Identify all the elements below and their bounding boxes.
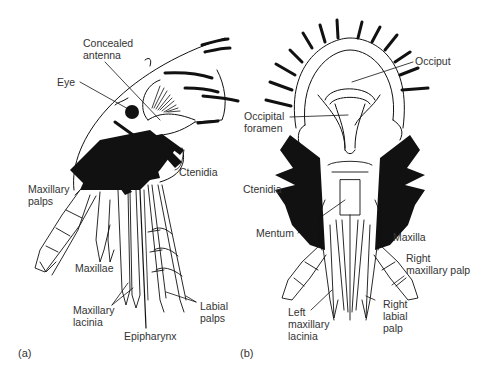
label-maxillary-lacinia: Maxillary lacinia bbox=[73, 304, 114, 328]
label-maxillary-palps: Maxillary palps bbox=[28, 183, 69, 207]
label-concealed-antenna: Concealed antenna bbox=[83, 37, 133, 61]
panel-label-b: (b) bbox=[240, 347, 253, 359]
label-eye: Eye bbox=[57, 76, 75, 88]
label-maxillae: Maxillae bbox=[75, 262, 114, 274]
label-mentum: Mentum bbox=[256, 227, 294, 239]
label-left-maxillary-lacinia: Left maxillary lacinia bbox=[288, 306, 329, 342]
label-right-labial-palp: Right labial palp bbox=[383, 298, 408, 334]
flea-head-anatomy-figure: Concealed antenna Eye Ctenidia Maxillary… bbox=[0, 0, 496, 378]
label-labial-palps: Labial palps bbox=[200, 300, 228, 324]
label-ctenidia-a: Ctenidia bbox=[179, 166, 218, 178]
label-maxilla: Maxilla bbox=[393, 231, 426, 243]
label-occiput: Occiput bbox=[415, 55, 451, 67]
panel-label-a: (a) bbox=[18, 347, 31, 359]
label-right-maxillary-palp: Right maxillary palp bbox=[406, 252, 470, 276]
label-occipital-foramen: Occipital foramen bbox=[244, 110, 284, 134]
label-epipharynx: Epipharynx bbox=[124, 330, 177, 342]
label-ctenidia-b: Ctenidia bbox=[243, 183, 282, 195]
